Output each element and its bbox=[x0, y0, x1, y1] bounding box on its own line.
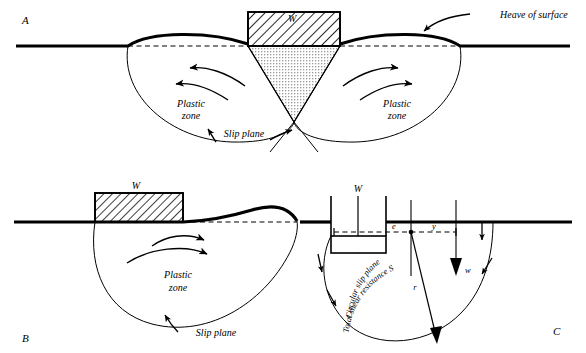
rotation-arrow-b-inner bbox=[152, 236, 204, 246]
rotation-arrow-right-outer bbox=[343, 68, 398, 86]
plastic-zone-b-line1: Plastic bbox=[163, 269, 192, 280]
panel-a: A W Plastic zone Plastic zone Slip plane bbox=[16, 9, 570, 152]
panel-c: C W e y w r bbox=[300, 183, 572, 344]
radius-label-r: r bbox=[413, 282, 417, 292]
plastic-zone-right-line2: zone bbox=[387, 110, 407, 121]
plastic-zone-left-line1: Plastic bbox=[176, 98, 205, 109]
elastic-wedge bbox=[248, 46, 340, 122]
slip-plane-label-a: Slip plane bbox=[224, 128, 265, 139]
plastic-zone-b-line2: zone bbox=[168, 282, 188, 293]
plastic-zone-left-line2: zone bbox=[181, 110, 201, 121]
shear-arrow-1 bbox=[318, 254, 322, 272]
figure-bearing-capacity-failure: A W Plastic zone Plastic zone Slip plane bbox=[0, 0, 586, 353]
panel-b-letter: B bbox=[22, 332, 29, 344]
ground-line-left bbox=[16, 34, 248, 46]
plastic-zone-right-line1: Plastic bbox=[382, 98, 411, 109]
shear-arrow-2 bbox=[327, 290, 336, 306]
load-label-w: W bbox=[354, 183, 364, 194]
weight-arrowhead-w bbox=[450, 258, 462, 276]
soil-weight-label-w: w bbox=[465, 265, 471, 275]
shear-arrow-4 bbox=[482, 258, 492, 274]
panel-a-letter: A bbox=[21, 14, 29, 26]
eccentricity-label-e: e bbox=[392, 221, 396, 231]
heave-leader bbox=[424, 14, 470, 31]
load-block-b bbox=[95, 193, 183, 222]
arm-label-y: y bbox=[431, 221, 436, 231]
heave-label: Heave of surface bbox=[499, 9, 568, 20]
rotation-arrow-b-outer bbox=[127, 248, 207, 263]
panel-c-letter: C bbox=[553, 325, 561, 337]
panel-b: B W Plastic zone Slip plane bbox=[14, 180, 297, 344]
footing-box bbox=[331, 236, 386, 253]
rotation-arrow-left-outer bbox=[190, 68, 245, 86]
ground-line-right bbox=[340, 34, 570, 46]
slip-plane-leader-b bbox=[165, 315, 178, 332]
load-block-b-label: W bbox=[132, 180, 142, 191]
slip-plane-label-b: Slip plane bbox=[196, 327, 237, 338]
